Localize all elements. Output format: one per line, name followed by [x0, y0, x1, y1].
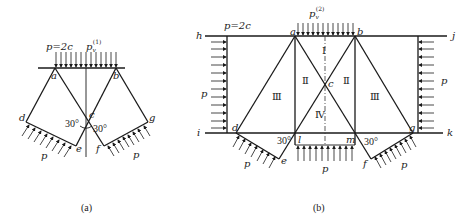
point-e-label: e — [76, 143, 82, 154]
point-b-label: b — [113, 70, 119, 81]
pressure-label-bottom: p — [322, 163, 329, 174]
point-a-label: a — [51, 70, 57, 81]
point-c-label-b: c — [328, 78, 334, 89]
point-i-label: i — [197, 127, 200, 138]
point-g-label-b: g — [409, 122, 415, 133]
point-l-label: l — [298, 134, 301, 145]
pressure-arrows-de-b — [233, 136, 275, 168]
region-II-left-label: Ⅱ — [302, 75, 309, 86]
pressure-label-left-wall: p — [201, 88, 208, 99]
pressure-label-right-a: p — [133, 149, 140, 160]
point-h-label: h — [196, 30, 202, 41]
point-k-label: k — [447, 127, 453, 138]
region-II-right-label: Ⅱ — [343, 75, 350, 86]
point-f-label-b: f — [362, 158, 369, 169]
pressure-label-right-wall: p — [441, 75, 448, 86]
point-b-label-b: b — [357, 26, 363, 37]
figure-b: p=2c pv(2) h j i k a b c d e f g l m Ⅰ Ⅱ… — [196, 5, 455, 214]
point-d-label-b: d — [232, 122, 238, 133]
point-m-label: m — [346, 134, 355, 145]
point-c-label: c — [89, 109, 95, 120]
angle-left-label-b: 30° — [277, 135, 291, 146]
figure-a: p=2c pv(1) a b c d e f g 30° 30° p p (a) — [19, 38, 155, 214]
pressure-label-right-slope: p — [401, 159, 408, 170]
angle-right-label-b: 30° — [364, 136, 378, 147]
angle-left-label-a: 30° — [65, 118, 79, 129]
angle-right-label-a: 30° — [93, 123, 107, 134]
pv-label-a: pv(1) — [86, 38, 101, 53]
pv-label-b: pv(2) — [309, 5, 324, 20]
point-e-label-b: e — [281, 155, 287, 166]
top-load-arrows-a — [56, 52, 116, 67]
region-III-left-label: Ⅲ — [272, 91, 282, 102]
slip-line-diagrams: p=2c pv(1) a b c d e f g 30° 30° p p (a) — [0, 0, 464, 223]
point-j-label: j — [450, 30, 455, 41]
region-I-label: Ⅰ — [322, 45, 326, 56]
top-load-arrows-b — [298, 23, 353, 35]
caption-b: (b) — [313, 202, 325, 214]
caption-a: (a) — [81, 202, 92, 214]
point-g-label: g — [149, 112, 155, 123]
point-d-label: d — [19, 112, 25, 123]
region-IV-label: Ⅳ — [315, 109, 326, 120]
right-wall-arrows-b — [419, 42, 434, 128]
point-a-label-b: a — [290, 26, 296, 37]
top-load-label-a: p=2c — [46, 41, 73, 52]
bottom-arrows-b — [298, 146, 352, 161]
left-wall-arrows-b — [211, 42, 226, 128]
top-load-label-b: p=2c — [224, 20, 251, 31]
pressure-label-left-slope: p — [244, 158, 251, 169]
point-f-label: f — [95, 143, 102, 154]
pressure-label-left-a: p — [41, 150, 48, 161]
region-III-right-label: Ⅲ — [370, 91, 380, 102]
